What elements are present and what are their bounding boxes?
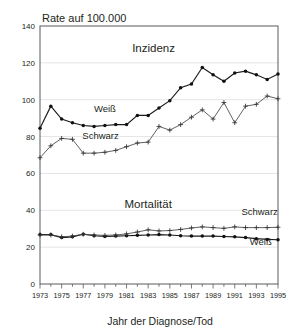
data-point-marker [92,233,97,238]
annotation-label-inzidenz: Inzidenz [132,42,175,54]
data-point-marker [189,226,194,231]
annotation-label-weiss: Weiß [250,236,272,247]
data-point-marker [92,125,96,129]
data-point-marker [136,114,140,118]
data-point-marker [276,238,280,242]
data-point-marker [255,73,259,77]
data-point-marker [254,225,259,230]
data-point-marker [276,225,281,230]
data-point-marker [222,235,226,239]
data-point-marker [82,124,86,128]
data-point-marker [146,114,150,118]
x-axis-title: Jahr der Diagnose/Tod [107,315,213,327]
data-point-marker [232,224,237,229]
data-point-marker [233,235,237,239]
x-axis-tick-label: 1987 [183,291,199,300]
data-point-marker [189,115,194,120]
x-axis-tick-label: 1975 [54,291,70,300]
data-point-marker [178,122,183,127]
data-point-marker [157,229,162,234]
data-point-marker [190,82,194,86]
data-point-marker [70,234,75,239]
plot-frame [40,26,278,284]
x-axis-tick-label: 1993 [248,291,264,300]
data-point-marker [167,228,172,233]
series-inzidenz-weiss [38,66,280,130]
chart-title: Rate auf 100.000 [42,12,126,24]
x-axis-tick-label: 1979 [97,291,113,300]
data-point-marker [265,225,270,230]
data-point-marker [179,86,183,90]
data-point-marker [146,227,151,232]
data-point-marker [71,121,75,125]
data-point-marker [92,151,97,156]
y-axis-tick-label: 80 [26,133,35,142]
data-point-marker [114,123,118,127]
data-point-marker [244,69,248,73]
x-axis-tick-label: 1995 [270,291,286,300]
incidence-mortality-line-chart: 020406080100120140 197319751977197919811… [0,0,298,332]
data-point-marker [81,232,86,237]
data-point-marker [103,233,108,238]
data-point-marker [265,78,269,82]
data-point-marker [201,66,205,70]
x-axis-tick-label: 1989 [205,291,221,300]
data-point-marker [243,104,248,109]
data-point-marker [59,234,64,239]
data-point-marker [211,73,215,77]
data-point-marker [179,234,183,238]
data-point-marker [146,140,151,145]
data-point-marker [125,123,129,127]
data-point-marker [135,230,140,235]
y-axis-tick-label: 0 [31,280,36,289]
data-point-marker [157,233,161,237]
chart-container: 020406080100120140 197319751977197919811… [0,0,298,332]
y-axis-tick-labels: 020406080100120140 [22,22,36,289]
series-mortalität-weiss [38,232,280,241]
data-point-marker [200,224,205,229]
data-point-marker [49,104,53,108]
data-point-marker [178,227,183,232]
data-point-marker [103,150,108,155]
annotation-label-weiss: Weiß [94,103,116,114]
data-point-marker [168,99,172,103]
y-axis-tick-label: 100 [22,96,36,105]
y-axis-tick-label: 120 [22,59,36,68]
series-inzidenz-schwarz [38,94,281,161]
gridlines [40,63,278,247]
data-point-marker [233,71,237,75]
data-point-marker [201,234,205,238]
data-point-marker [190,234,194,238]
y-axis-tick-label: 60 [26,169,35,178]
annotation-label-schwarz: Schwarz [82,130,119,141]
data-point-marker [157,106,161,110]
y-axis-tick-label: 40 [26,206,35,215]
x-axis-tick-label: 1977 [75,291,91,300]
data-point-marker [103,124,107,128]
data-point-marker [124,144,129,149]
y-axis-tick-label: 20 [26,243,35,252]
x-axis-tick-marks [40,284,278,289]
data-point-marker [222,100,227,105]
data-point-marker [244,236,248,240]
x-axis-tick-label: 1991 [227,291,243,300]
x-axis-tick-labels: 1973197519771979198119831985198719891991… [32,291,286,300]
data-point-marker [167,128,172,133]
data-point-marker [60,117,64,121]
data-point-marker [135,141,140,146]
annotation-label-mortalitat: Mortalität [125,198,173,210]
data-point-marker [38,233,43,238]
annotation-label-schwarz: Schwarz [241,206,278,217]
x-axis-tick-label: 1981 [118,291,134,300]
data-point-marker [113,148,118,153]
data-point-marker [232,120,237,125]
data-point-marker [222,226,227,231]
data-point-marker [276,96,281,101]
data-point-marker [48,233,53,238]
data-point-marker [38,127,42,131]
data-point-marker [168,233,172,237]
data-point-marker [211,234,215,238]
data-point-marker [243,225,248,230]
x-axis-tick-label: 1983 [140,291,156,300]
data-point-marker [157,124,162,129]
